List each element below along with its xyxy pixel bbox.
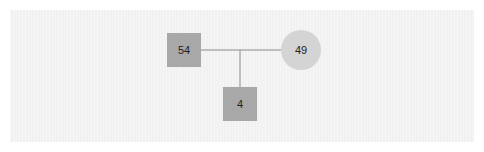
node-child[interactable]: 4 [223, 87, 257, 121]
pedigree-diagram: 54 49 4 [0, 0, 484, 152]
node-mother[interactable]: 49 [281, 30, 321, 70]
node-label: 54 [178, 44, 190, 56]
node-father[interactable]: 54 [167, 33, 201, 67]
node-label: 4 [237, 98, 243, 110]
node-label: 49 [295, 44, 307, 56]
